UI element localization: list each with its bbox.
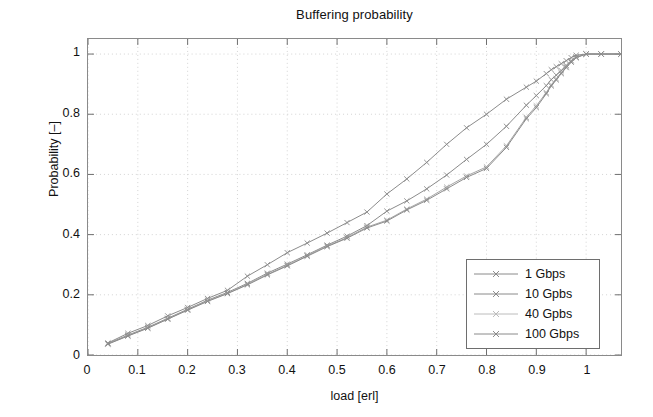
x-tick-label: 0 [67, 364, 107, 377]
y-axis-label: Probability [–] [47, 79, 61, 239]
x-tick-label: 0.6 [367, 364, 407, 377]
legend-item[interactable]: 40 Gpbs [467, 304, 599, 324]
x-tick-label: 0.7 [417, 364, 457, 377]
legend-item[interactable]: 1 Gbps [467, 264, 599, 284]
x-tick-label: 0.3 [217, 364, 257, 377]
x-tick-label: 0.8 [467, 364, 507, 377]
y-tick-label: 1 [16, 46, 80, 59]
x-axis-label: load [erl] [87, 389, 622, 403]
legend-line-swatch-icon [472, 307, 520, 321]
x-tick-label: 1 [567, 364, 607, 377]
legend-item[interactable]: 100 Gbps [467, 324, 599, 344]
y-tick-label: 0 [16, 349, 80, 362]
chart-title: Buffering probability [87, 7, 622, 22]
legend: 1 Gbps 10 Gpbs 40 Gpbs 100 Gbps [466, 259, 600, 349]
y-tick-label: 0.2 [16, 288, 80, 301]
x-tick-label: 0.2 [167, 364, 207, 377]
legend-label: 10 Gpbs [525, 287, 572, 301]
legend-label: 40 Gpbs [525, 307, 572, 321]
x-tick-label: 0.5 [317, 364, 357, 377]
legend-label: 1 Gbps [525, 267, 565, 281]
x-tick-label: 0.1 [117, 364, 157, 377]
x-tick-label: 0.4 [267, 364, 307, 377]
x-tick-label: 0.9 [517, 364, 557, 377]
figure-canvas: Buffering probability 00.20.40.60.81 00.… [0, 0, 653, 417]
legend-line-swatch-icon [472, 327, 520, 341]
legend-line-swatch-icon [472, 287, 520, 301]
legend-label: 100 Gbps [525, 327, 579, 341]
legend-item[interactable]: 10 Gpbs [467, 284, 599, 304]
legend-line-swatch-icon [472, 267, 520, 281]
